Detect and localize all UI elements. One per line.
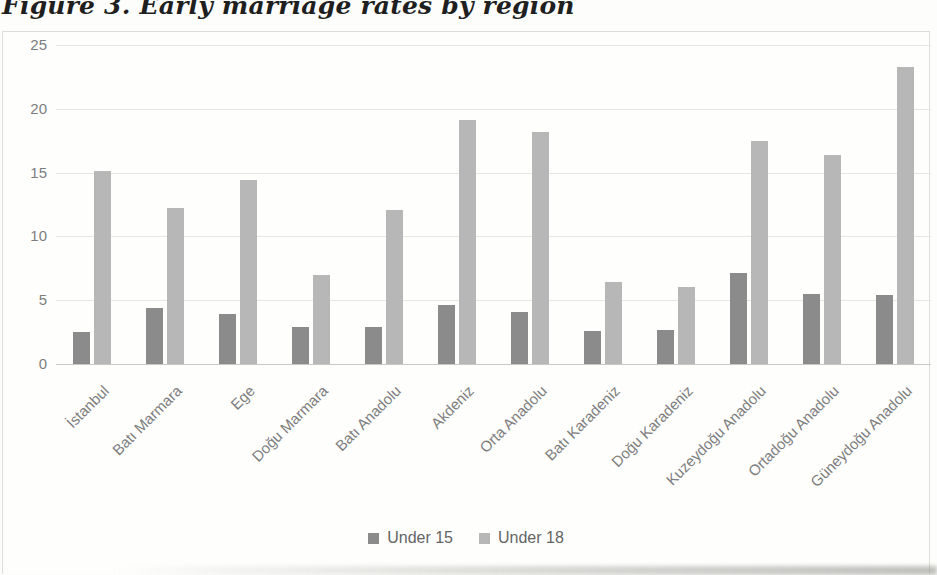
bar-group — [56, 45, 129, 364]
y-axis-tick-label: 15 — [9, 164, 47, 181]
scanned-figure-page: Figure 3. Early marriage rates by region… — [0, 0, 937, 575]
x-axis-label: Kuzeydoğu Anadolu — [640, 382, 769, 511]
bar — [876, 295, 893, 364]
bar-group — [494, 45, 567, 364]
legend-swatch-under-15-icon — [368, 533, 379, 544]
bar — [386, 210, 403, 364]
chart-legend: Under 15 Under 18 — [3, 529, 929, 547]
x-axis-label: Ortadoğu Anadolu — [713, 382, 842, 511]
y-axis-tick-label: 25 — [9, 36, 47, 53]
x-axis-label: İstanbul — [0, 382, 112, 511]
bar-group — [421, 45, 494, 364]
bar — [146, 308, 163, 364]
bar-group — [275, 45, 348, 364]
x-axis-label: Doğu Marmara — [203, 382, 332, 511]
bar — [803, 294, 820, 364]
y-axis-tick-label: 20 — [9, 100, 47, 117]
bar-group — [639, 45, 712, 364]
figure-title: Figure 3. Early marriage rates by region — [2, 0, 575, 20]
x-axis-label: Ege — [130, 382, 259, 511]
bar — [751, 141, 768, 364]
bar — [511, 312, 528, 364]
legend-swatch-under-18-icon — [479, 533, 490, 544]
plot-area — [56, 45, 931, 365]
y-axis-tick-label: 5 — [9, 291, 47, 308]
x-axis-label: Orta Anadolu — [421, 382, 550, 511]
x-axis: İstanbulBatı MarmaraEgeDoğu MarmaraBatı … — [56, 379, 931, 524]
x-axis-label: Doğu Karadeniz — [567, 382, 696, 511]
bar-group — [785, 45, 858, 364]
x-axis-label: Batı Marmara — [57, 382, 186, 511]
bar — [219, 314, 236, 364]
legend-label-under-15: Under 15 — [387, 529, 453, 547]
bar — [897, 67, 914, 364]
bar — [730, 273, 747, 364]
legend-label-under-18: Under 18 — [498, 529, 564, 547]
bar-group — [129, 45, 202, 364]
bar — [532, 132, 549, 364]
x-axis-label: Batı Anadolu — [275, 382, 404, 511]
x-axis-label: Batı Karadeniz — [494, 382, 623, 511]
bar — [167, 208, 184, 364]
bar — [459, 120, 476, 364]
bar-group — [202, 45, 275, 364]
x-axis-label: Güneydoğu Anadolu — [786, 382, 915, 511]
y-axis-tick-label: 10 — [9, 227, 47, 244]
bar — [678, 287, 695, 364]
bar — [438, 305, 455, 364]
bar — [657, 330, 674, 364]
legend-item-under-15: Under 15 — [368, 529, 453, 547]
chart-container: 0510152025 İstanbulBatı MarmaraEgeDoğu M… — [2, 31, 930, 574]
bar-group — [348, 45, 421, 364]
bar-group — [566, 45, 639, 364]
y-axis-tick-label: 0 — [9, 355, 47, 372]
bar — [240, 180, 257, 364]
bar — [365, 327, 382, 364]
bar — [94, 171, 111, 364]
legend-item-under-18: Under 18 — [479, 529, 564, 547]
bar — [824, 155, 841, 364]
bar — [605, 282, 622, 364]
bar — [292, 327, 309, 364]
bar-group — [712, 45, 785, 364]
bar — [313, 275, 330, 364]
x-axis-label: Akdeniz — [348, 382, 477, 511]
bar-group — [858, 45, 931, 364]
bar — [73, 332, 90, 364]
bar — [584, 331, 601, 364]
